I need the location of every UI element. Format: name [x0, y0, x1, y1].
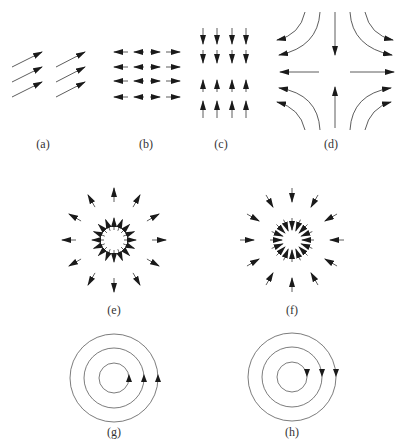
panel-a-uniform-field	[12, 52, 85, 97]
panel-g-counterclockwise	[70, 334, 161, 422]
panel-b-horizontal-field	[114, 52, 180, 97]
label-c: (c)	[214, 137, 227, 152]
label-a: (a)	[36, 137, 49, 152]
label-b: (b)	[139, 137, 153, 152]
vector-field-figure	[0, 0, 403, 448]
panel-c-vertical-field	[203, 28, 246, 118]
label-f: (f)	[286, 303, 298, 318]
label-e: (e)	[107, 303, 120, 318]
panel-h-clockwise	[248, 333, 339, 421]
label-g: (g)	[107, 425, 121, 440]
panel-e-radial-source	[62, 188, 166, 292]
panel-d-saddle-flow	[277, 12, 394, 130]
panel-f-radial-sink	[240, 188, 344, 292]
label-d: (d)	[324, 137, 338, 152]
label-h: (h)	[285, 425, 299, 440]
